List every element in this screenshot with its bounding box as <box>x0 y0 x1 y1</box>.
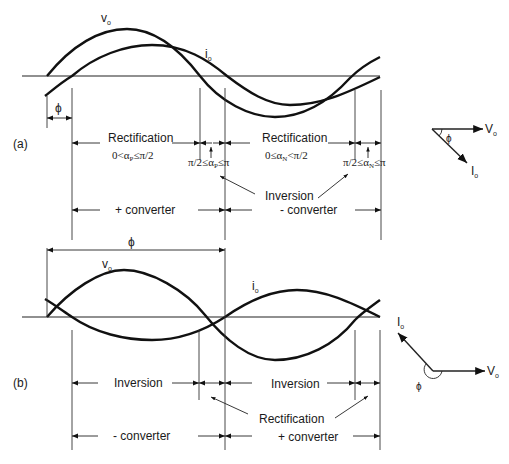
inversion-label-1-b: Inversion <box>114 376 163 390</box>
vo-curve-a <box>47 29 380 117</box>
rectification-label-b: Rectification <box>259 412 324 426</box>
alpha-p-rect-condition: 0<αP≤π/2 <box>112 149 154 163</box>
plus-converter-label-b: + converter <box>278 430 338 444</box>
phasor-diagram-a: ϕ Vo Io <box>432 122 497 179</box>
svg-text:ϕ: ϕ <box>446 133 452 144</box>
svg-text:Io: Io <box>397 315 404 330</box>
io-curve-b <box>45 290 380 340</box>
rectification-label-2-a: Rectification <box>262 131 327 145</box>
svg-text:Vo: Vo <box>487 364 499 379</box>
phi-label-b: ϕ <box>128 235 135 249</box>
part-b: ϕ vo io (b) Inversion Inversion Rectific… <box>13 235 499 450</box>
svg-text:ϕ: ϕ <box>416 381 422 392</box>
inversion-label-a: Inversion <box>265 189 314 203</box>
part-a: vo io ϕ (a) Rectification Rectification … <box>13 11 497 240</box>
vo-curve-b <box>47 270 380 360</box>
alpha-n-rect-condition: 0≤αN<π/2 <box>265 149 308 163</box>
phasor-diagram-b: ϕ Vo Io <box>397 315 499 392</box>
plus-converter-label-a: + converter <box>115 203 175 217</box>
part-b-label: (b) <box>13 376 28 390</box>
svg-text:Vo: Vo <box>485 122 497 137</box>
vo-label-b: vo <box>102 257 112 272</box>
vo-label-a: vo <box>101 11 111 26</box>
part-a-label: (a) <box>13 137 28 151</box>
io-label-b: io <box>252 279 259 294</box>
svg-text:Io: Io <box>471 164 478 179</box>
inversion-label-2-b: Inversion <box>271 377 320 391</box>
alpha-p-inv-condition: π/2≤αP≤π <box>188 156 230 170</box>
alpha-n-inv-condition: π/2≤αN≤π <box>343 156 386 170</box>
phi-label-a: ϕ <box>55 101 62 115</box>
minus-converter-label-b: - converter <box>113 429 170 443</box>
rectification-label-1-a: Rectification <box>108 131 173 145</box>
converter-waveform-diagram: vo io ϕ (a) Rectification Rectification … <box>0 0 509 464</box>
minus-converter-label-a: - converter <box>280 203 337 217</box>
io-label-a: io <box>205 47 212 62</box>
